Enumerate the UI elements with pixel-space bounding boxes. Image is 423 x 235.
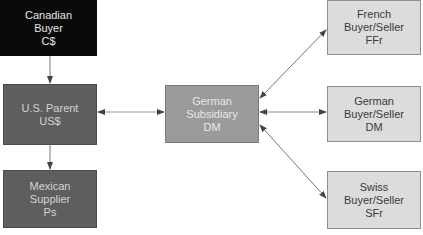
node-label-line: German <box>354 95 394 108</box>
node-currency: DM <box>203 121 220 134</box>
node-label-line: German <box>192 95 232 108</box>
node-us-parent: U.S. Parent US$ <box>3 84 97 145</box>
node-currency: FFr <box>365 34 382 47</box>
node-label-line: Supplier <box>30 193 70 206</box>
node-currency: US$ <box>39 115 60 128</box>
node-label-line: U.S. Parent <box>22 102 79 115</box>
node-label-line: Buyer/Seller <box>344 108 404 121</box>
node-currency: Ps <box>44 206 57 219</box>
node-label-line: Buyer <box>34 22 63 35</box>
arrow-subsidiary-swiss <box>260 125 326 198</box>
node-german-subsidiary: German Subsidiary DM <box>165 85 259 143</box>
node-currency: C$ <box>41 35 55 48</box>
node-french-buyer-seller: French Buyer/Seller FFr <box>327 0 421 55</box>
node-german-buyer-seller: German Buyer/Seller DM <box>327 86 421 142</box>
node-currency: SFr <box>365 207 383 220</box>
node-label-line: Mexican <box>30 180 71 193</box>
node-canadian-buyer: Canadian Buyer C$ <box>0 0 97 56</box>
node-label-line: Canadian <box>25 9 72 22</box>
node-label-line: Buyer/Seller <box>344 194 404 207</box>
node-currency: DM <box>365 121 382 134</box>
node-mexican-supplier: Mexican Supplier Ps <box>3 170 97 228</box>
arrow-subsidiary-french <box>260 30 326 98</box>
node-label-line: French <box>357 8 391 21</box>
node-swiss-buyer-seller: Swiss Buyer/Seller SFr <box>327 171 421 229</box>
node-label-line: Subsidiary <box>186 108 237 121</box>
node-label-line: Buyer/Seller <box>344 21 404 34</box>
node-label-line: Swiss <box>360 181 389 194</box>
